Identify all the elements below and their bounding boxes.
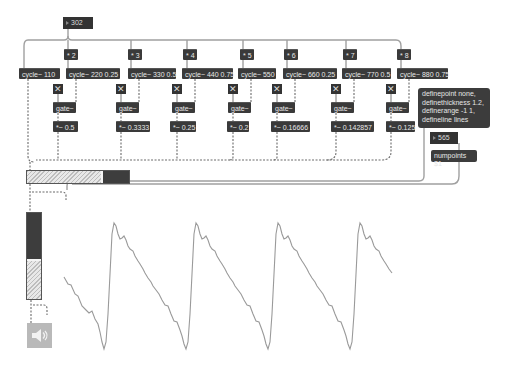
cycle-object-5[interactable]: cycle~ 550 [238,68,276,79]
numpoints-number-box[interactable]: 565 [430,132,458,144]
gate-object-5[interactable]: gate~ [228,102,251,113]
slider-fill [27,171,101,183]
fundamental-number-box[interactable]: 302 [63,17,93,29]
gain-object-3[interactable]: *~ 0.3333 [116,121,150,132]
oscilloscope-display [62,214,412,354]
cycle-object-6[interactable]: cycle~ 660 0.25 [283,68,337,79]
gain-object-4[interactable]: *~ 0.25 [170,121,196,132]
toggle-8[interactable]: ✕ [386,84,396,94]
speaker-icon [27,323,52,348]
mult-object-6[interactable]: * 6 [284,49,298,60]
mix-gain-slider[interactable] [26,170,130,184]
cycle-object-4[interactable]: cycle~ 440 0.75 [182,68,233,79]
gain-object-2[interactable]: *~ 0.5 [53,121,78,132]
toggle-4[interactable]: ✕ [172,84,182,94]
mult-object-3[interactable]: * 3 [128,49,142,60]
toggle-6[interactable]: ✕ [272,84,282,94]
base-cycle-object[interactable]: cycle~ 110 [19,68,60,79]
number-triangle-icon [66,21,69,25]
toggle-5[interactable]: ✕ [228,84,238,94]
gain-object-6[interactable]: *~ 0.16666 [271,121,310,132]
toggle-2[interactable]: ✕ [53,84,63,94]
gate-object-3[interactable]: gate~ [116,102,139,113]
slider-fill [27,261,41,299]
cycle-object-2[interactable]: cycle~ 220 0.25 [66,68,120,79]
gate-object-6[interactable]: gate~ [272,102,295,113]
slider-knob[interactable] [101,171,103,183]
gate-object-7[interactable]: gate~ [331,102,354,113]
gain-object-5[interactable]: *~ 0.2 [227,121,249,132]
scope-config-message[interactable]: definepoint none, definethickness 1.2, d… [418,88,490,128]
gate-object-8[interactable]: gate~ [386,102,409,113]
slider-knob[interactable] [27,259,41,261]
output-gain-slider[interactable] [26,212,42,300]
toggle-3[interactable]: ✕ [116,84,126,94]
gate-object-4[interactable]: gate~ [172,102,195,113]
mult-object-7[interactable]: * 7 [343,49,357,60]
cycle-object-8[interactable]: cycle~ 880 0.75 [397,68,448,79]
cycle-object-7[interactable]: cycle~ 770 0.5 [342,68,391,79]
number-triangle-icon [433,136,436,140]
gate-object-2[interactable]: gate~ [53,102,76,113]
gain-object-7[interactable]: *~ 0.142857 [331,121,374,132]
mult-object-2[interactable]: * 2 [64,49,78,60]
ezdac-button[interactable] [27,323,52,348]
mult-object-4[interactable]: * 4 [183,49,197,60]
waveform-line [64,223,392,349]
toggle-7[interactable]: ✕ [331,84,341,94]
mult-object-5[interactable]: * 5 [240,49,254,60]
mult-object-8[interactable]: * 8 [397,49,411,60]
cycle-object-3[interactable]: cycle~ 330 0.5 [128,68,176,79]
numpoints-message[interactable]: numpoints $1 [431,150,477,162]
gain-object-8[interactable]: *~ 0.125 [386,121,415,132]
